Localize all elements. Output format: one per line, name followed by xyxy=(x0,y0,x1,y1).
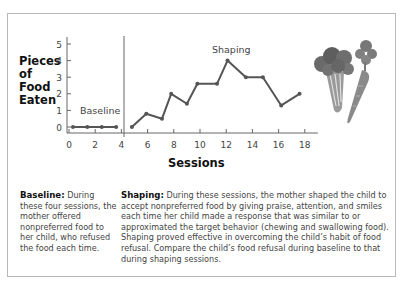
x-tick-label: 8 xyxy=(171,140,177,150)
x-tick-label: 18 xyxy=(299,140,311,150)
data-point xyxy=(244,75,248,79)
x-tick-label: 0 xyxy=(66,140,72,150)
data-point xyxy=(215,82,219,86)
data-point xyxy=(71,125,75,129)
shaping-caption-text: During these sessions, the mother shaped… xyxy=(121,190,389,264)
data-point xyxy=(160,117,164,121)
y-tick-label: 2 xyxy=(56,89,62,99)
shaping-annotation: Shaping xyxy=(212,44,251,55)
data-point xyxy=(85,125,89,129)
data-point xyxy=(195,82,199,86)
x-tick-label: 14 xyxy=(247,140,259,150)
baseline-caption: Baseline: During these four sessions, th… xyxy=(20,190,118,254)
y-tick-label: 4 xyxy=(56,56,62,66)
data-point xyxy=(100,125,104,129)
x-tick-label: 2 xyxy=(92,140,98,150)
x-tick-label: 10 xyxy=(194,140,206,150)
carrot-icon xyxy=(347,40,377,123)
x-tick-label: 16 xyxy=(273,140,285,150)
data-point xyxy=(185,102,189,106)
data-point xyxy=(261,75,265,79)
broccoli-icon xyxy=(314,47,354,113)
data-point xyxy=(298,92,302,96)
data-point xyxy=(144,112,148,116)
baseline-annotation: Baseline xyxy=(80,105,120,116)
x-tick-label: 4 xyxy=(119,140,125,150)
y-tick-label: 5 xyxy=(56,40,62,50)
shaping-caption-heading: Shaping: xyxy=(121,190,164,200)
x-axis-label: Sessions xyxy=(168,156,225,170)
data-point xyxy=(130,125,134,129)
series-line-shaping xyxy=(132,61,300,127)
data-point xyxy=(279,103,283,107)
y-tick-label: 0 xyxy=(56,123,62,133)
shaping-caption: Shaping: During these sessions, the moth… xyxy=(121,190,389,264)
data-point xyxy=(169,92,173,96)
x-tick-label: 12 xyxy=(220,140,231,150)
baseline-caption-heading: Baseline: xyxy=(20,190,65,200)
x-tick-label: 6 xyxy=(145,140,151,150)
broccoli-carrot-illustration xyxy=(308,36,388,128)
y-tick-label: 3 xyxy=(56,73,62,83)
data-point xyxy=(226,59,230,63)
data-point xyxy=(114,125,118,129)
y-tick-label: 1 xyxy=(56,106,62,116)
